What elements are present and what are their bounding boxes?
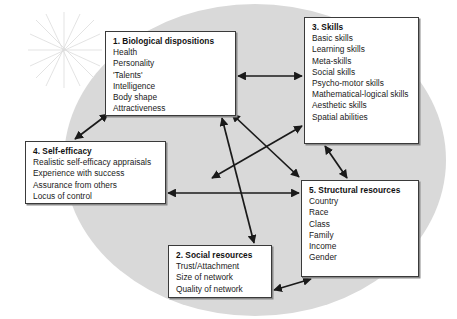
node-item: 'Talents'	[113, 70, 229, 81]
node-item: Spatial abilities	[312, 112, 412, 123]
arrow-box5-box1	[232, 114, 299, 177]
node-title: 3. Skills	[312, 22, 412, 33]
node-box-self-efficacy[interactable]: 4. Self-efficacy Realistic self-efficacy…	[25, 141, 166, 204]
node-item: Psycho-motor skills	[312, 78, 412, 89]
node-item: Intelligence	[113, 81, 229, 92]
node-item: Mathematical-logical skills	[312, 89, 412, 100]
node-item: Experience with success	[33, 168, 159, 179]
node-item: Attractiveness	[113, 103, 229, 114]
node-item: Country	[309, 196, 412, 207]
node-item: Aesthetic skills	[312, 100, 412, 111]
node-item: Realistic self-efficacy appraisals	[33, 157, 159, 168]
node-item: Personality	[113, 58, 229, 69]
node-item: Social skills	[312, 67, 412, 78]
node-box-skills[interactable]: 3. Skills Basic skills Learning skills M…	[304, 17, 419, 144]
arrow-box2-box5	[274, 279, 311, 290]
node-item: Basic skills	[312, 33, 412, 44]
node-title: 5. Structural resources	[309, 185, 412, 196]
node-item: Body shape	[113, 92, 229, 103]
node-item: Trust/Attachment	[176, 261, 265, 272]
node-item: Health	[113, 47, 229, 58]
node-item: Learning skills	[312, 44, 412, 55]
node-item: Gender	[309, 252, 412, 263]
node-item: Meta-skills	[312, 56, 412, 67]
node-item: Class	[309, 219, 412, 230]
node-item: Assurance from others	[33, 180, 159, 191]
node-box-social-resources[interactable]: 2. Social resources Trust/Attachment Siz…	[168, 245, 272, 298]
node-item: Income	[309, 241, 412, 252]
node-box-biological-dispositions[interactable]: 1. Biological dispositions Health Person…	[105, 31, 236, 116]
diagram-canvas: 1. Biological dispositions Health Person…	[0, 0, 457, 319]
arrow-box3-box5	[325, 146, 347, 178]
node-box-structural-resources[interactable]: 5. Structural resources Country Race Cla…	[301, 180, 419, 277]
arrow-box1-box4	[75, 114, 108, 139]
node-item: Size of network	[176, 272, 265, 283]
node-title: 2. Social resources	[176, 250, 265, 261]
node-title: 1. Biological dispositions	[113, 36, 229, 47]
node-item: Race	[309, 207, 412, 218]
arrow-box1-box2	[222, 118, 254, 243]
node-item: Family	[309, 230, 412, 241]
node-item: Quality of network	[176, 284, 265, 295]
node-title: 4. Self-efficacy	[33, 146, 159, 157]
node-item: Locus of control	[33, 191, 159, 202]
